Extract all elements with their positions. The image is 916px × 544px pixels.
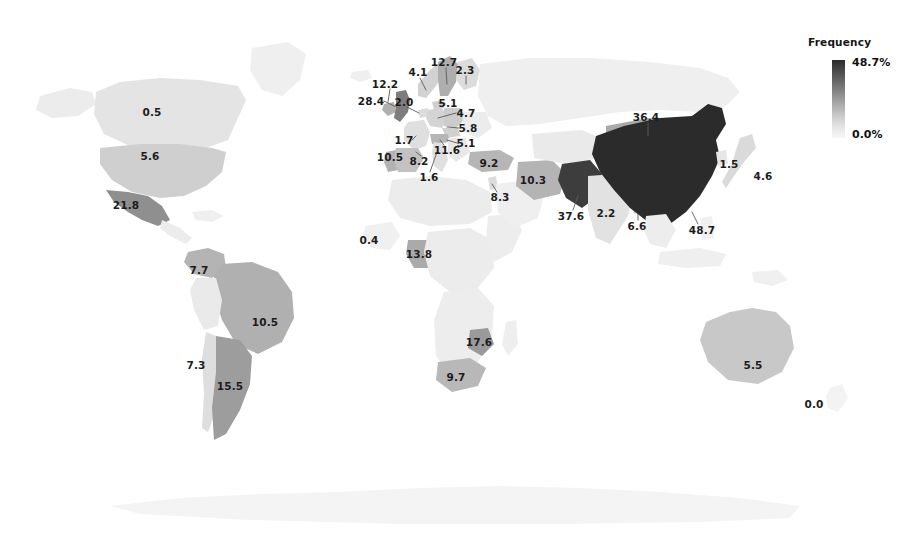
country-philippines bbox=[700, 216, 714, 240]
map-legend: Frequency 48.7% 0.0% bbox=[800, 36, 910, 148]
country-south-korea bbox=[716, 150, 728, 166]
legend-title: Frequency bbox=[808, 36, 871, 48]
world-map-canvas bbox=[0, 0, 916, 544]
legend-gradient-bar bbox=[832, 60, 845, 138]
legend-min-label: 0.0% bbox=[852, 128, 883, 141]
region-central-asia bbox=[532, 130, 604, 164]
choropleth-map-figure: 0.55.621.87.710.57.315.528.412.22.04.112… bbox=[0, 0, 916, 544]
country-canada bbox=[94, 78, 246, 150]
legend-max-label: 48.7% bbox=[852, 56, 890, 69]
